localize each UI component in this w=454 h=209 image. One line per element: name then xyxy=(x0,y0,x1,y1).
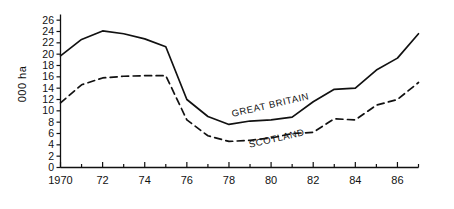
series-lines xyxy=(61,31,419,141)
y-tick-label: 12 xyxy=(42,93,54,105)
series-inline-label: GREAT BRITAIN xyxy=(231,90,311,119)
y-tick-label: 26 xyxy=(42,14,54,26)
y-tick-label: 24 xyxy=(42,25,54,37)
y-tick-label: 14 xyxy=(42,82,54,94)
x-tick-label: 1970 xyxy=(48,174,72,186)
x-tick-label: 84 xyxy=(349,174,361,186)
y-axis: 02468101214161820222426 xyxy=(42,14,60,173)
x-tick-label: 72 xyxy=(96,174,108,186)
y-tick-label: 6 xyxy=(48,127,54,139)
x-tick-label: 80 xyxy=(265,174,277,186)
chart-container: 000 ha 02468101214161820222426 197072747… xyxy=(0,0,454,209)
x-tick-label: 86 xyxy=(391,174,403,186)
y-tick-label: 4 xyxy=(48,138,54,150)
y-tick-label: 2 xyxy=(48,150,54,162)
y-tick-label: 8 xyxy=(48,116,54,128)
series-inline-label: SCOTLAND xyxy=(248,126,306,149)
x-tick-label: 78 xyxy=(223,174,235,186)
x-tick-label: 82 xyxy=(307,174,319,186)
y-tick-label: 16 xyxy=(42,70,54,82)
y-tick-label: 0 xyxy=(48,161,54,173)
y-tick-label: 18 xyxy=(42,59,54,71)
x-tick-label: 74 xyxy=(139,174,151,186)
y-tick-label: 22 xyxy=(42,36,54,48)
x-tick-label: 76 xyxy=(181,174,193,186)
x-axis: 19707274767880828486 xyxy=(48,162,418,186)
y-tick-label: 10 xyxy=(42,104,54,116)
line-chart-plot: 02468101214161820222426 1970727476788082… xyxy=(0,0,454,209)
y-tick-label: 20 xyxy=(42,48,54,60)
